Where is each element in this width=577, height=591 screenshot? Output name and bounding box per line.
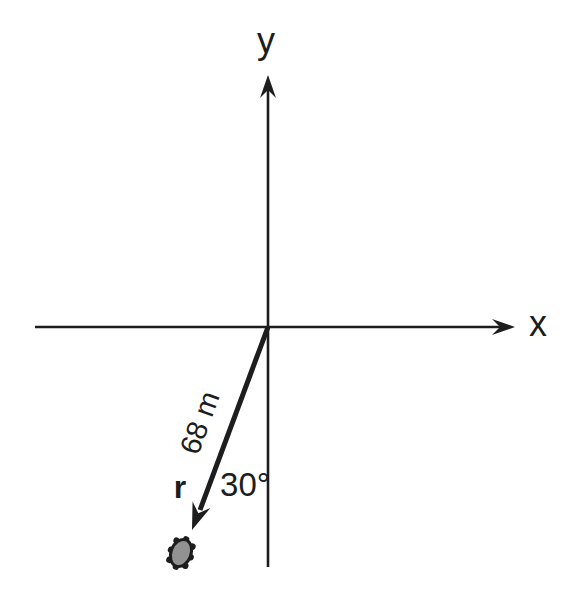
vector-diagram-svg: y x 68 m 30° r: [0, 0, 577, 591]
diagram-canvas: y x 68 m 30° r: [0, 0, 577, 591]
x-axis-label: x: [529, 303, 547, 344]
bug-body: [167, 536, 196, 569]
vector-angle-label: 30°: [220, 466, 270, 503]
bug-icon: [162, 532, 200, 575]
vector-length-label: 68 m: [174, 387, 226, 459]
vector-r-arrowhead: [183, 501, 210, 533]
vector-r-label: r: [174, 469, 186, 505]
y-axis-label: y: [257, 20, 275, 61]
